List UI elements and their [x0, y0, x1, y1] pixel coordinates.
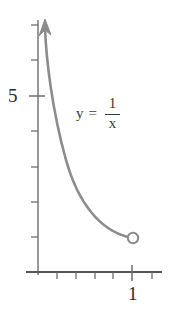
equation-lhs: y	[76, 105, 84, 122]
x-axis-ticks	[57, 265, 152, 281]
equation-fraction: 1 x	[105, 96, 120, 131]
function-graph-figure: 5 1 y = 1 x	[0, 0, 169, 322]
y-axis-tick-label-5: 5	[8, 86, 18, 105]
equation-annotation: y = 1 x	[76, 96, 120, 131]
curve-y-equals-one-over-x	[45, 27, 128, 237]
plot-area	[0, 0, 169, 322]
open-circle-endpoint-marker	[128, 233, 138, 243]
y-axis-ticks	[29, 25, 45, 237]
fraction-numerator: 1	[107, 96, 119, 112]
x-axis-tick-label-1: 1	[128, 284, 138, 303]
equation-operator: =	[89, 105, 97, 122]
fraction-denominator: x	[107, 116, 119, 132]
